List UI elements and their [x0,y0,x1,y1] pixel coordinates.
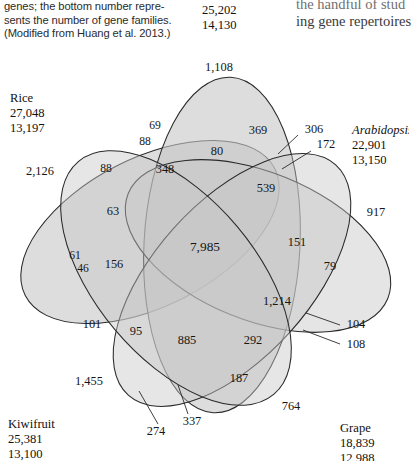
venn-region-count: 1,108 [205,60,233,74]
venn-region-count: 292 [244,333,263,347]
venn-region-count: 104 [347,317,366,331]
venn-region-count: 369 [249,123,268,137]
venn-set-gene-count: 25,202 [202,3,237,17]
venn-region-count: 156 [105,257,124,271]
venn-region-count: 337 [183,414,202,428]
venn-region-count: 151 [288,235,307,249]
venn-set-family-count: 14,130 [202,18,237,32]
venn-region-count: 187 [230,371,249,385]
venn-region-count: 95 [130,324,142,338]
venn-set-name: Grape [340,421,371,435]
venn-set-name: Kiwifruit [8,417,55,431]
venn-region-count: 306 [305,122,324,136]
venn-region-count: 7,985 [190,239,220,254]
venn-region-count: 108 [347,337,366,351]
venn-set-family-count: 13,100 [8,447,43,461]
venn-region-count: 88 [139,135,151,148]
venn-region-count: 79 [324,259,336,273]
venn-region-count: 274 [147,424,166,438]
venn-region-count: 63 [107,204,119,218]
venn-region-count: 885 [178,333,197,347]
venn-region-count: 46 [77,262,89,275]
venn-region-count: 348 [156,162,175,176]
venn-set-gene-count: 18,839 [340,436,375,450]
venn-set-gene-count: 22,901 [352,138,387,152]
venn-set-family-count: 13,197 [10,121,45,135]
venn-set-name: Arabidopsis [351,123,409,137]
venn-region-count: 172 [317,137,336,151]
venn-region-count: 2,126 [26,164,54,178]
venn-region-count: 539 [257,181,276,195]
venn-region-count: 101 [83,317,102,331]
venn-set-name: Rice [10,91,33,105]
venn-region-count: 764 [282,399,301,413]
venn-region-count: 88 [100,162,112,175]
venn-set-gene-count: 25,381 [8,432,43,446]
venn-ellipses [0,73,409,447]
venn-region-count: 80 [211,144,223,158]
venn-region-count: 1,455 [75,374,103,388]
venn-region-count: 69 [149,119,161,132]
venn-region-count: 61 [69,249,81,262]
venn-set-family-count: 13,150 [352,153,387,167]
venn-set-gene-count: 27,048 [10,106,45,120]
venn-region-count: 1,214 [263,294,291,308]
venn-region-count: 917 [367,205,386,219]
venn-set-family-count: 12,988 [340,451,375,461]
